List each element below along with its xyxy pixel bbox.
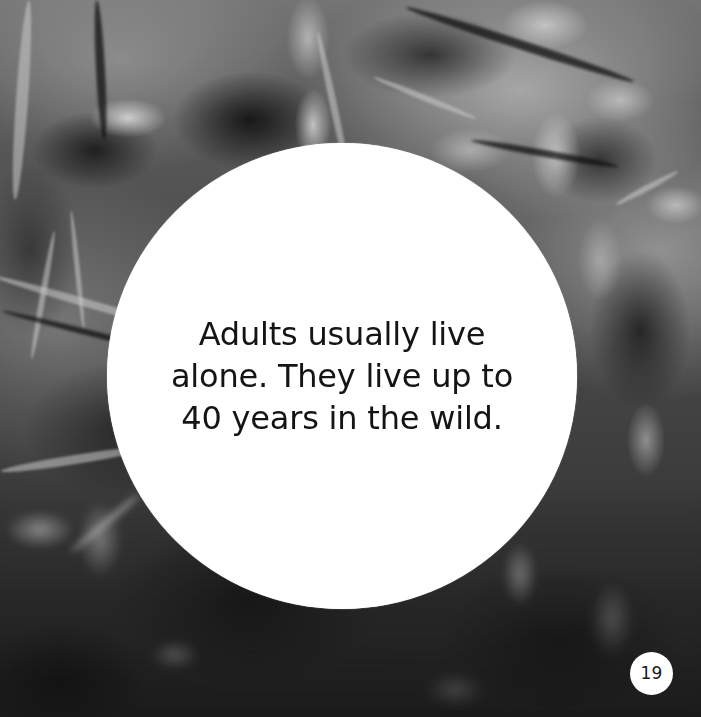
page-number-label: 19 bbox=[640, 665, 662, 682]
caption-text: Adults usually live alone. They live up … bbox=[142, 313, 542, 439]
page-number-badge: 19 bbox=[630, 652, 673, 695]
caption-circle: Adults usually live alone. They live up … bbox=[107, 143, 577, 609]
book-page: Adults usually live alone. They live up … bbox=[0, 0, 701, 717]
